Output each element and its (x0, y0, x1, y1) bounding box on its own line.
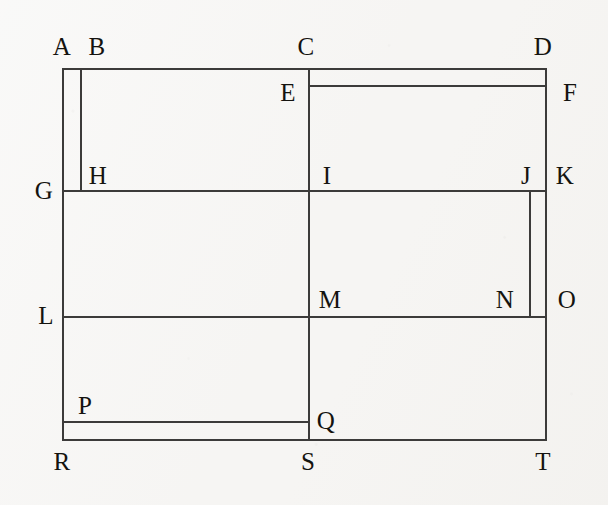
paper-texture-overlay (0, 0, 608, 505)
vertex-label-L: L (38, 303, 53, 328)
vertex-label-J: J (521, 163, 531, 188)
vertex-label-F: F (563, 80, 577, 105)
vertex-label-G: G (35, 178, 53, 203)
vertex-label-I: I (323, 163, 332, 188)
segment-D-F-K-O-T (545, 68, 547, 441)
vertex-label-O: O (558, 287, 576, 312)
segment-G-H-I-J-K (62, 190, 547, 192)
segment-A-G-L-R (62, 68, 64, 441)
vertex-label-H: H (89, 163, 107, 188)
segment-P-Q (62, 421, 310, 423)
vertex-label-B: B (89, 34, 106, 59)
vertex-label-T: T (535, 449, 550, 474)
vertex-label-A: A (53, 34, 71, 59)
segment-C-E-I-M-S (308, 68, 310, 441)
vertex-label-Q: Q (317, 408, 335, 433)
vertex-label-P: P (78, 393, 92, 418)
segment-J-N (529, 190, 531, 318)
vertex-label-M: M (319, 287, 341, 312)
vertex-label-K: K (556, 163, 574, 188)
figure-canvas: A B C D E F G H I J K L M N O P Q R S T (0, 0, 608, 505)
vertex-label-C: C (298, 34, 315, 59)
vertex-label-R: R (54, 449, 71, 474)
segment-R-S-T (62, 439, 547, 441)
vertex-label-D: D (534, 34, 552, 59)
segment-E-F (308, 85, 547, 87)
vertex-label-N: N (496, 287, 514, 312)
vertex-label-S: S (301, 449, 315, 474)
segment-B-H (80, 68, 82, 192)
vertex-label-E: E (280, 80, 295, 105)
segment-L-M-N-O (62, 316, 547, 318)
segment-A-B-C-D (62, 68, 547, 70)
